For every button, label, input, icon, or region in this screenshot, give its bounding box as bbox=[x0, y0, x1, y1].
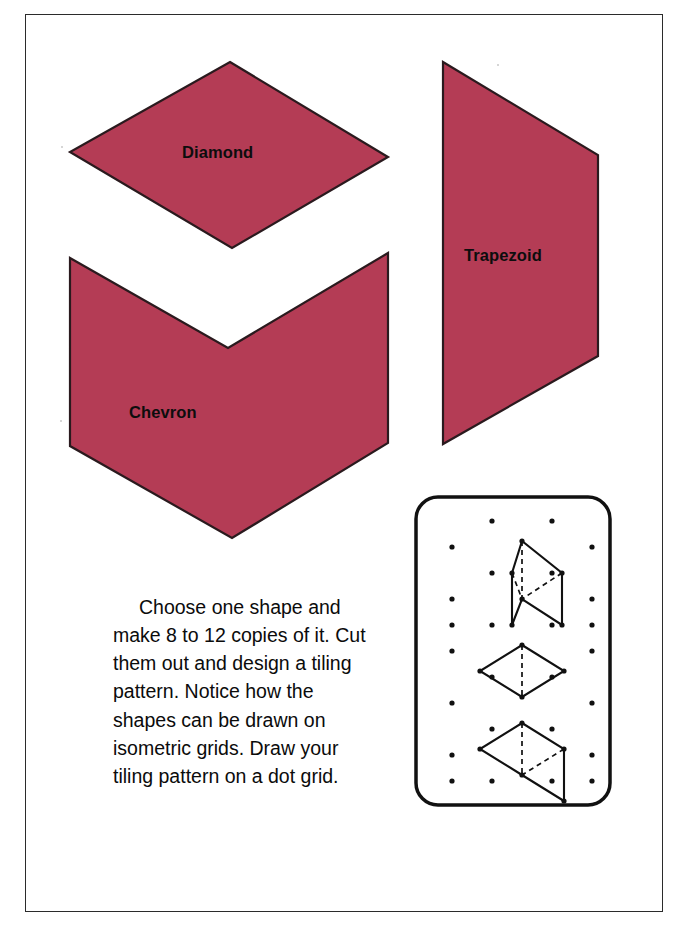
grid-dot bbox=[519, 772, 524, 777]
grid-dot bbox=[589, 622, 594, 627]
grid-dot bbox=[477, 668, 482, 673]
grid-dot bbox=[589, 596, 594, 601]
grid-dot bbox=[509, 622, 514, 627]
grid-dot bbox=[519, 720, 524, 725]
grid-dot bbox=[561, 668, 566, 673]
grid-dot bbox=[589, 778, 594, 783]
grid-dot bbox=[589, 752, 594, 757]
grid-dot bbox=[489, 570, 494, 575]
shape-label-trapezoid: Trapezoid bbox=[464, 246, 542, 265]
worksheet-page: Diamond Chevron Trapezoid Choose one sha… bbox=[0, 0, 679, 932]
scan-speckle bbox=[61, 146, 63, 148]
grid-dot bbox=[489, 726, 494, 731]
grid-dot bbox=[509, 570, 514, 575]
grid-dot bbox=[549, 622, 554, 627]
grid-dot bbox=[489, 518, 494, 523]
grid-dot bbox=[519, 538, 524, 543]
shape-label-chevron: Chevron bbox=[129, 403, 197, 422]
grid-dot bbox=[449, 648, 454, 653]
grid-dot bbox=[519, 694, 524, 699]
grid-dot bbox=[449, 622, 454, 627]
grid-dot bbox=[561, 798, 566, 803]
scan-speckle bbox=[60, 420, 62, 422]
grid-dot bbox=[449, 778, 454, 783]
grid-dot bbox=[449, 596, 454, 601]
grid-dot bbox=[449, 544, 454, 549]
grid-dot bbox=[477, 746, 482, 751]
grid-dot bbox=[549, 778, 554, 783]
grid-dot bbox=[549, 726, 554, 731]
grid-dot bbox=[449, 700, 454, 705]
grid-dot bbox=[489, 622, 494, 627]
grid-dot bbox=[561, 746, 566, 751]
grid-dot bbox=[589, 648, 594, 653]
instructions-paragraph: Choose one shape and make 8 to 12 copies… bbox=[113, 593, 371, 791]
grid-dot bbox=[519, 596, 524, 601]
grid-dot bbox=[519, 642, 524, 647]
grid-dot bbox=[589, 700, 594, 705]
grid-dot bbox=[559, 570, 564, 575]
scan-speckle bbox=[497, 64, 499, 66]
dot-grid-panel bbox=[414, 495, 612, 807]
shape-label-diamond: Diamond bbox=[182, 143, 253, 162]
grid-dot bbox=[559, 622, 564, 627]
grid-dot bbox=[589, 544, 594, 549]
grid-dot bbox=[549, 570, 554, 575]
grid-dot bbox=[449, 752, 454, 757]
grid-dot bbox=[549, 518, 554, 523]
grid-dot bbox=[489, 778, 494, 783]
